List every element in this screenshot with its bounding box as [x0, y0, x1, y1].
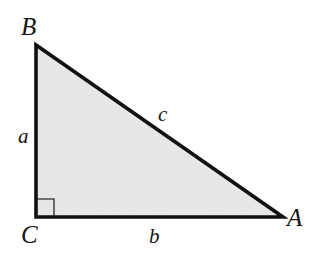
vertex-label-c: C — [21, 222, 38, 247]
side-label-a: a — [18, 126, 29, 147]
side-label-b: b — [149, 226, 160, 247]
vertex-label-a: A — [287, 205, 302, 230]
right-triangle-figure: B C A a b c — [0, 0, 316, 269]
vertex-label-b: B — [21, 14, 36, 39]
side-label-c: c — [158, 104, 167, 125]
